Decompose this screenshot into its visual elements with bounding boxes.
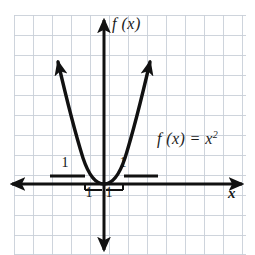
graph-figure: f (x) x f (x) = x2 1 1 1 1 [0,0,255,255]
unit-label-right-top: 1 [116,156,130,170]
equation-expression: f (x) = x [157,130,213,147]
equation-exponent: 2 [213,129,218,140]
unit-label-left-bottom: 1 [82,186,96,200]
graph-ink [0,0,255,255]
unit-label-left-top: 1 [58,156,72,170]
equation-label: f (x) = x2 [157,130,218,147]
unit-label-right-bottom: 1 [102,186,116,200]
x-axis-label: x [228,186,236,201]
y-axis-label: f (x) [112,16,141,32]
